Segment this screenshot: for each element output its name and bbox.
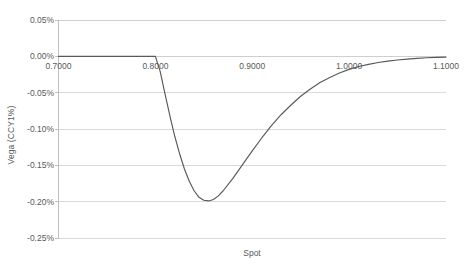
x-axis-tick-label: 0.9000 (239, 62, 265, 71)
x-axis-tick-label: 1.0000 (336, 62, 362, 71)
chart-container: Vega (CCY1%) 0.05%0.00%-0.05%-0.10%-0.15… (0, 0, 467, 270)
x-axis-tick-label: 1.1000 (433, 62, 459, 71)
x-axis-title: Spot (58, 248, 446, 258)
x-axis-tick-label: 0.7000 (46, 62, 72, 71)
x-axis-tick-label: 0.8000 (142, 62, 168, 71)
x-axis-tick-labels: 0.70000.80000.90001.00001.1000 (0, 0, 467, 270)
